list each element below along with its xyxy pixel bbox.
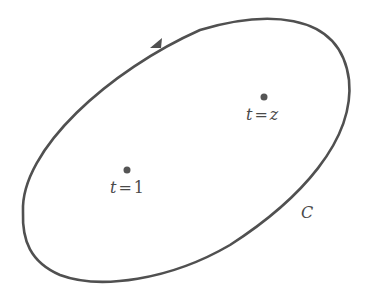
direction-arrow-icon: [150, 38, 162, 48]
label-t-equals-z: t=z: [246, 105, 279, 124]
point-t-equals-z: [261, 94, 268, 101]
contour-label-c: C: [301, 203, 313, 222]
contour-diagram: t=z t=1 C: [0, 0, 369, 299]
point-t-equals-1: [124, 167, 131, 174]
contour-c: [23, 19, 350, 282]
label-t-equals-1: t=1: [110, 178, 144, 197]
